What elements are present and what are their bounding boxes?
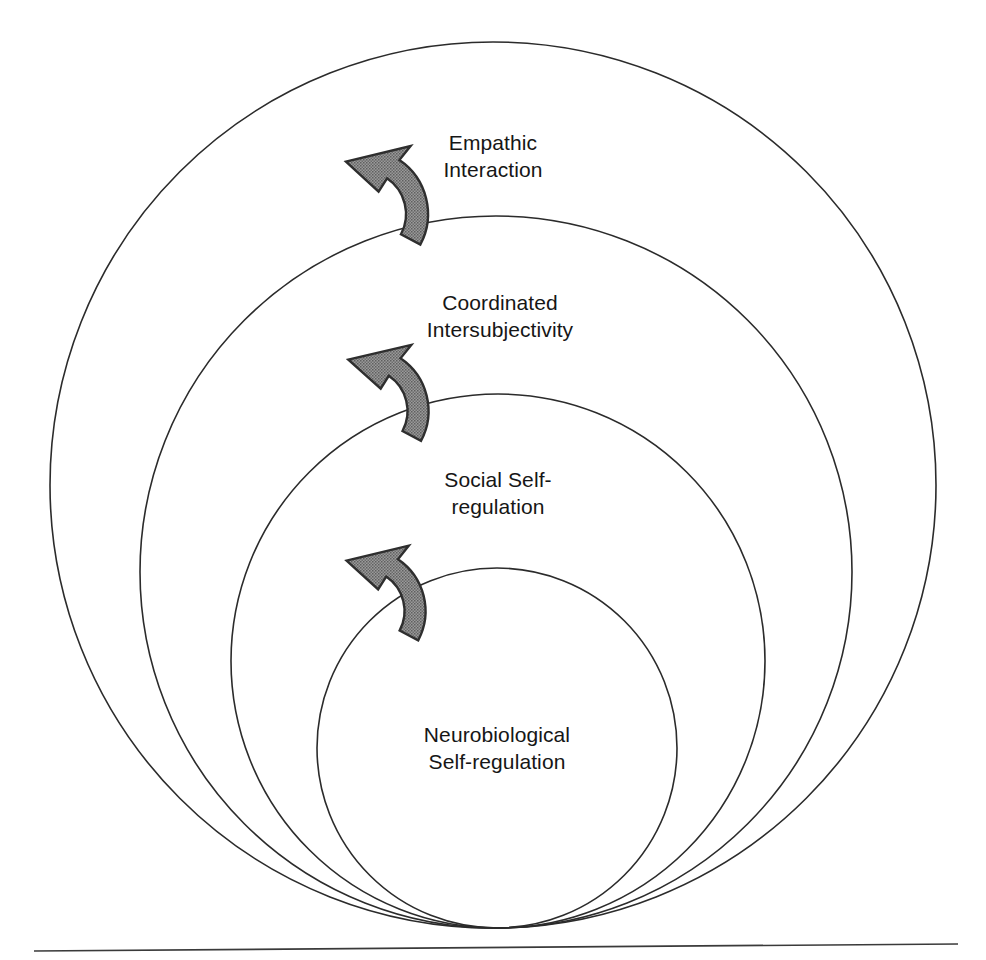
label-empathic-interaction-line2: Interaction [443, 158, 542, 181]
label-neurobiological-self-regulation-line1: Neurobiological [424, 723, 570, 746]
label-social-self-regulation-line2: regulation [451, 495, 544, 518]
nested-circles-diagram: Empathic Interaction Coordinated Intersu… [0, 0, 986, 960]
circle-neurobiological-self-regulation [317, 568, 677, 928]
diagram-canvas: Empathic Interaction Coordinated Intersu… [0, 0, 986, 960]
label-coordinated-intersubjectivity-line1: Coordinated [442, 291, 558, 314]
label-social-self-regulation-line1: Social Self- [444, 468, 551, 491]
label-coordinated-intersubjectivity-line2: Intersubjectivity [427, 318, 574, 341]
ground-baseline [34, 944, 958, 951]
label-empathic-interaction-line1: Empathic [449, 131, 537, 154]
cycle-arrow-middle-icon [348, 345, 428, 441]
cycle-arrow-lower-icon [347, 546, 426, 641]
label-neurobiological-self-regulation-line2: Self-regulation [429, 750, 566, 773]
cycle-arrow-upper-icon [346, 146, 428, 245]
